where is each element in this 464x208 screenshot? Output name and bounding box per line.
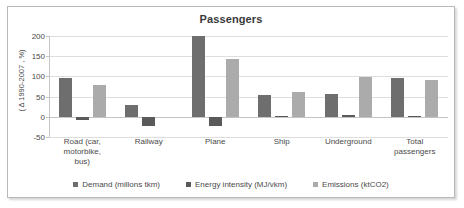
bar-group: [116, 36, 183, 137]
bar: [59, 78, 72, 116]
x-axis-label-line: Total: [382, 137, 449, 147]
x-axis-label: Railway: [116, 137, 183, 147]
x-axis-label: Road (car,motorbike,bus): [49, 137, 116, 167]
legend-item[interactable]: Demand (millons tkm): [73, 180, 160, 189]
x-axis-label-line: Railway: [116, 137, 183, 147]
legend-label: Demand (millons tkm): [82, 180, 160, 189]
bar-group: [315, 36, 382, 137]
legend-item[interactable]: Emissions (ktCO2): [313, 180, 389, 189]
plot-area: 200150100500-50: [49, 36, 448, 137]
x-axis-label: Totalpassengers: [382, 137, 449, 157]
y-tick-label-150: 150: [32, 52, 45, 61]
bar: [275, 116, 288, 117]
legend-swatch-icon: [186, 182, 191, 187]
bar: [209, 117, 222, 126]
legend-swatch-icon: [313, 182, 318, 187]
x-axis-label: Plane: [182, 137, 249, 147]
bar: [258, 95, 271, 117]
y-tick-label--50: -50: [33, 133, 45, 142]
bar-group: [182, 36, 249, 137]
bar: [391, 78, 404, 117]
x-axis-label-line: Road (car,: [49, 137, 116, 147]
chart-legend: Demand (millons tkm)Energy intensity (MJ…: [8, 180, 454, 189]
bar: [76, 117, 89, 120]
y-tick-label-200: 200: [32, 32, 45, 41]
x-axis-label-line: Underground: [315, 137, 382, 147]
chart-title: Passengers: [8, 13, 454, 25]
x-axis-label-line: Ship: [249, 137, 316, 147]
bar: [226, 59, 239, 117]
bar: [425, 80, 438, 117]
y-tick-label-50: 50: [36, 92, 45, 101]
x-axis-label-line: motorbike,: [49, 147, 116, 157]
bar-group: [249, 36, 316, 137]
bar-group: [49, 36, 116, 137]
bar: [325, 94, 338, 117]
x-axis-label: Underground: [315, 137, 382, 147]
bars-layer: [49, 36, 448, 137]
bar: [292, 92, 305, 117]
bar: [142, 117, 155, 126]
legend-label: Emissions (ktCO2): [322, 180, 389, 189]
legend-swatch-icon: [73, 182, 78, 187]
bar: [408, 116, 421, 117]
bar: [93, 85, 106, 117]
x-axis-label-line: passengers: [382, 147, 449, 157]
y-axis-title: ( Δ 1990-2007 , %): [14, 25, 28, 135]
y-axis-title-text: ( Δ 1990-2007 , %): [17, 49, 26, 111]
bar: [125, 105, 138, 117]
x-axis-label-line: Plane: [182, 137, 249, 147]
legend-label: Energy intensity (MJ/vkm): [195, 180, 287, 189]
bar-group: [382, 36, 449, 137]
bar: [342, 115, 355, 117]
x-axis-label-line: bus): [49, 157, 116, 167]
legend-item[interactable]: Energy intensity (MJ/vkm): [186, 180, 287, 189]
chart-container: Passengers ( Δ 1990-2007 , %) 2001501005…: [7, 6, 455, 198]
bar: [192, 36, 205, 117]
y-tick-label-0: 0: [41, 112, 45, 121]
y-tick-label-100: 100: [32, 72, 45, 81]
x-axis-category-labels: Road (car,motorbike,bus)RailwayPlaneShip…: [49, 137, 448, 173]
bar: [359, 77, 372, 117]
x-axis-label: Ship: [249, 137, 316, 147]
